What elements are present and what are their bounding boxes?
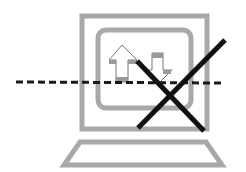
upload-arrow-icon xyxy=(109,45,137,82)
keyboard-icon xyxy=(64,142,222,165)
offline-computer-illustration xyxy=(0,0,246,172)
cross-out-icon xyxy=(137,40,225,131)
